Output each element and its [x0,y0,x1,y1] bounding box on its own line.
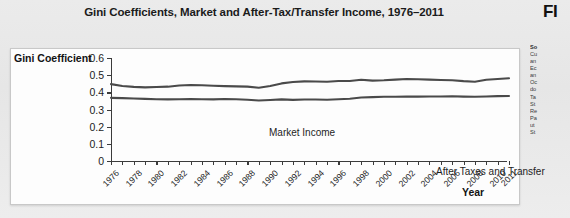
y-axis-title: Gini Coefficient [14,52,92,64]
plot-area: 00.10.20.30.40.50.6 19761978198019821984… [111,58,509,163]
y-tick-label: 0.2 [89,121,104,133]
x-tick-label: 1996 [328,168,349,189]
annotation-after-taxes: After Taxes and Transfer [436,166,545,177]
source-note-line: Ec [530,65,570,72]
x-tick-label: 1998 [351,168,372,189]
source-note-line: ut [530,122,570,129]
source-note-line: Oc [530,79,570,86]
source-note-line: an [530,58,570,65]
line-after-taxes-and-transfer [111,96,509,101]
x-tick-label: 1990 [260,168,281,189]
x-tick-label: 1976 [100,168,121,189]
source-note-column: So CuanEcanOcdoTaStRePautSt [530,44,570,184]
x-tick-label: 1994 [305,168,326,189]
x-tick-label: 1984 [191,168,212,189]
x-tick-label: 1988 [237,168,258,189]
x-tick-label: 2002 [396,168,417,189]
x-tick-label: 1992 [282,168,303,189]
x-tick-label: 1978 [123,168,144,189]
source-note-line: St [530,101,570,108]
y-tick-label: 0.4 [89,86,104,98]
source-note-line: Ta [530,94,570,101]
x-tick-label: 1986 [214,168,235,189]
chart-title: Gini Coefficients, Market and After-Tax/… [0,6,528,18]
source-note-heading: So [530,44,570,50]
x-tick-label: 2000 [373,168,394,189]
source-note-line: St [530,129,570,136]
annotation-market-income: Market Income [269,127,335,138]
x-axis-title: Year [462,186,484,198]
source-note-line: an [530,72,570,79]
source-note-line: do [530,86,570,93]
y-tick-label: 0 [98,155,104,167]
y-tick-label: 0.3 [89,104,104,116]
x-tick [509,161,510,165]
x-tick-label: 1982 [169,168,190,189]
y-tick-label: 0.1 [89,138,104,150]
chart-panel: 00.10.20.30.40.50.6 19761978198019821984… [10,48,520,205]
figure-number-label: FI [543,2,557,22]
source-note-line: Re [530,108,570,115]
source-note-line: Pa [530,115,570,122]
source-note-line: Cu [530,51,570,58]
source-note-lines: CuanEcanOcdoTaStRePautSt [530,51,570,136]
y-tick-label: 0.5 [89,69,104,81]
line-market-income [111,78,509,87]
series-group [111,58,509,163]
x-tick-label: 1980 [146,168,167,189]
